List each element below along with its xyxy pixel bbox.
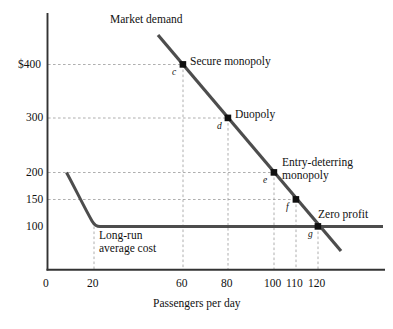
point-e[interactable] [271,169,278,176]
chart-container: $400 300 200 150 100 0 20 60 80 100 110 … [0,0,393,329]
x-tick-80: 80 [221,277,233,290]
x-tick-0: 0 [43,277,49,290]
x-axis-title: Passengers per day [153,297,241,310]
annotation-entry-deterring-line1: Entry-deterring [282,156,353,169]
x-tick-100: 100 [264,277,281,290]
x-tick-20: 20 [87,277,99,290]
annotation-duopoly: Duopoly [235,108,275,121]
point-label-e: e [263,175,267,186]
x-tick-120: 120 [308,277,325,290]
point-label-g: g [308,229,313,240]
axes [47,13,386,271]
point-g[interactable] [315,223,322,230]
point-label-d: d [217,121,222,132]
point-c[interactable] [180,61,187,68]
annotation-entry-deterring-line2: monopoly [282,169,329,182]
point-f[interactable] [293,196,300,203]
y-tick-200: 200 [26,166,43,179]
point-d[interactable] [225,115,232,122]
annotation-lrac-line1: Long-run [99,229,142,242]
x-tick-60: 60 [176,277,188,290]
annotation-secure-monopoly: Secure monopoly [190,55,271,68]
point-label-f: f [286,202,289,213]
y-tick-100: 100 [26,220,43,233]
y-tick-150: 150 [26,193,43,206]
guide-lines [48,65,318,271]
y-tick-300: 300 [26,111,43,124]
annotation-market-demand: Market demand [110,13,183,26]
annotation-zero-profit: Zero profit [318,208,368,221]
annotation-lrac-line2: average cost [99,242,156,255]
x-tick-110: 110 [286,277,303,290]
y-tick-400: $400 [18,58,41,71]
point-label-c: c [172,67,176,78]
